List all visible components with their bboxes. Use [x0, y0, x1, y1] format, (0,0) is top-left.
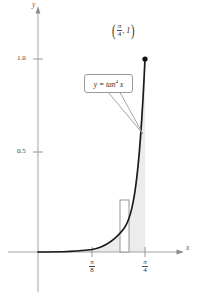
y-axis-arrow-icon — [36, 6, 41, 14]
equation-suffix: x — [120, 79, 123, 88]
x-axis-label: x — [186, 243, 189, 252]
equation-exponent: 4 — [116, 79, 119, 84]
representative-rectangle — [120, 200, 129, 252]
plot-canvas — [0, 0, 199, 298]
fraction-pi-over-8: π 8 — [89, 259, 95, 274]
function-equation-text: y = tan4 x — [94, 79, 123, 89]
y-axis-label: y — [32, 0, 35, 9]
x-axis-arrow-icon — [177, 250, 185, 255]
point-coordinate-label: ( π 4 , 1 ) — [111, 22, 136, 39]
function-callout-box: y = tan4 x — [84, 74, 133, 93]
y-tick-label-1.0: 1.0 — [17, 54, 26, 62]
y-tick-label-0.5: 0.5 — [17, 147, 26, 155]
callout-leader-line — [108, 92, 143, 134]
fraction-denominator: 4 — [142, 267, 148, 274]
point-y-value: 1 — [125, 26, 130, 35]
left-paren: ( — [112, 22, 116, 39]
fraction-pi-over-4: π 4 — [142, 259, 148, 274]
endpoint-dot — [142, 56, 147, 61]
x-tick-label-pi-over-4: π 4 — [137, 256, 153, 274]
fraction-denominator: 8 — [89, 267, 95, 274]
tangent-power-integral-figure: 1.0 0.5 π 8 π 4 x y ( π 4 , 1 ) y = tan4… — [0, 0, 199, 298]
x-tick-label-pi-over-8: π 8 — [84, 256, 100, 274]
equation-prefix: y = tan — [94, 79, 116, 88]
callout-leader-line-secondary — [120, 93, 143, 135]
right-paren: ) — [131, 22, 135, 39]
